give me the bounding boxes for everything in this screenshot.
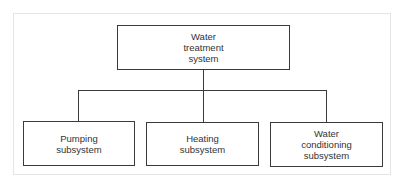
child-node-water-conditioning-subsystem: Water conditioning subsystem: [270, 122, 383, 167]
child-node-label: Water conditioning subsystem: [301, 128, 352, 161]
connector-horizontal-bar: [78, 90, 327, 91]
child-node-label: Heating subsystem: [180, 133, 225, 155]
child-node-label: Pumping subsystem: [56, 133, 101, 155]
root-node-water-treatment-system: Water treatment system: [117, 25, 290, 70]
connector-root-down: [203, 69, 204, 122]
root-node-label: Water treatment system: [183, 31, 223, 64]
child-node-heating-subsystem: Heating subsystem: [146, 122, 259, 166]
connector-left-down: [78, 90, 79, 122]
connector-right-down: [326, 90, 327, 122]
child-node-pumping-subsystem: Pumping subsystem: [23, 121, 135, 166]
